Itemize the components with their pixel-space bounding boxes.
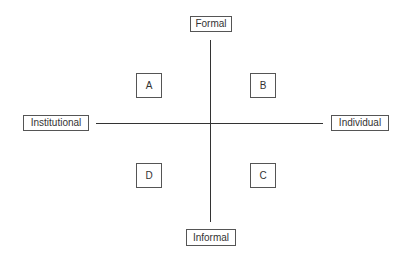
quadrant-c: C [250,163,276,188]
quadrant-b: B [250,73,276,98]
quadrant-a: A [136,73,162,98]
axis-label-individual: Individual [331,115,389,131]
vertical-axis-line [210,40,211,222]
quadrant-d: D [136,163,162,188]
axis-label-formal: Formal [190,16,232,32]
axis-label-informal: Informal [186,229,236,246]
axis-label-institutional: Institutional [23,115,89,131]
horizontal-axis-line [96,123,323,124]
quadrant-diagram: Formal Informal Institutional Individual… [0,0,415,257]
